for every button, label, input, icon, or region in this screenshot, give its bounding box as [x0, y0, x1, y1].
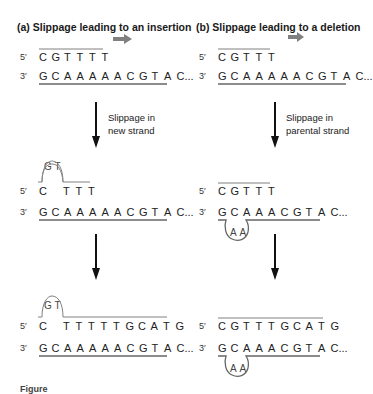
step-arrow-icon	[92, 102, 100, 148]
direction-arrow-icon	[288, 32, 304, 42]
step-arrow-icon	[271, 234, 279, 280]
step-arrow-icon	[271, 102, 279, 148]
deletion-loop	[218, 220, 320, 240]
direction-arrow-icon	[113, 34, 132, 44]
insertion-loop	[38, 164, 90, 182]
step-arrow-icon	[92, 234, 100, 280]
